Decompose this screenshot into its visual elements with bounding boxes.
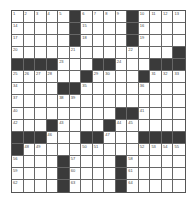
crossword-cell[interactable] bbox=[173, 156, 185, 168]
crossword-cell[interactable]: 48 bbox=[24, 144, 36, 156]
crossword-cell[interactable]: 44 bbox=[116, 120, 128, 132]
crossword-cell[interactable]: 5 bbox=[58, 11, 70, 23]
crossword-cell[interactable] bbox=[93, 23, 105, 35]
crossword-cell[interactable] bbox=[24, 83, 36, 95]
crossword-cell[interactable] bbox=[24, 35, 36, 47]
crossword-cell[interactable] bbox=[139, 180, 151, 192]
crossword-cell[interactable]: 58 bbox=[127, 156, 139, 168]
crossword-cell[interactable] bbox=[47, 168, 59, 180]
crossword-cell[interactable]: 8 bbox=[104, 11, 116, 23]
crossword-cell[interactable] bbox=[150, 156, 162, 168]
crossword-cell[interactable] bbox=[104, 83, 116, 95]
crossword-cell[interactable]: 47 bbox=[104, 132, 116, 144]
crossword-cell[interactable] bbox=[173, 120, 185, 132]
crossword-cell[interactable]: 35 bbox=[81, 83, 93, 95]
crossword-cell[interactable] bbox=[81, 168, 93, 180]
crossword-cell[interactable]: 23 bbox=[58, 59, 70, 71]
crossword-cell[interactable] bbox=[116, 71, 128, 83]
crossword-cell[interactable] bbox=[24, 95, 36, 107]
crossword-cell[interactable] bbox=[139, 59, 151, 71]
crossword-cell[interactable] bbox=[127, 71, 139, 83]
crossword-cell[interactable] bbox=[81, 47, 93, 59]
crossword-cell[interactable] bbox=[70, 144, 82, 156]
crossword-cell[interactable]: 24 bbox=[116, 59, 128, 71]
crossword-cell[interactable] bbox=[150, 120, 162, 132]
crossword-cell[interactable] bbox=[173, 83, 185, 95]
crossword-cell[interactable] bbox=[47, 35, 59, 47]
crossword-cell[interactable] bbox=[47, 144, 59, 156]
crossword-cell[interactable] bbox=[58, 108, 70, 120]
crossword-cell[interactable] bbox=[35, 83, 47, 95]
crossword-cell[interactable] bbox=[127, 132, 139, 144]
crossword-cell[interactable] bbox=[162, 168, 174, 180]
crossword-cell[interactable] bbox=[70, 108, 82, 120]
crossword-cell[interactable] bbox=[24, 180, 36, 192]
crossword-cell[interactable] bbox=[116, 95, 128, 107]
crossword-cell[interactable] bbox=[81, 95, 93, 107]
crossword-cell[interactable]: 14 bbox=[12, 23, 24, 35]
crossword-cell[interactable] bbox=[24, 168, 36, 180]
crossword-cell[interactable] bbox=[104, 144, 116, 156]
crossword-cell[interactable] bbox=[24, 156, 36, 168]
crossword-cell[interactable] bbox=[24, 23, 36, 35]
crossword-cell[interactable]: 9 bbox=[116, 11, 128, 23]
crossword-cell[interactable]: 31 bbox=[150, 71, 162, 83]
crossword-cell[interactable]: 6 bbox=[81, 11, 93, 23]
crossword-cell[interactable] bbox=[35, 23, 47, 35]
crossword-cell[interactable] bbox=[70, 71, 82, 83]
crossword-cell[interactable] bbox=[173, 180, 185, 192]
crossword-cell[interactable]: 45 bbox=[127, 120, 139, 132]
crossword-cell[interactable] bbox=[58, 35, 70, 47]
crossword-cell[interactable] bbox=[104, 47, 116, 59]
crossword-cell[interactable] bbox=[150, 23, 162, 35]
crossword-cell[interactable] bbox=[58, 47, 70, 59]
crossword-cell[interactable] bbox=[104, 95, 116, 107]
crossword-cell[interactable]: 30 bbox=[104, 71, 116, 83]
crossword-cell[interactable] bbox=[58, 23, 70, 35]
crossword-cell[interactable]: 11 bbox=[150, 11, 162, 23]
crossword-cell[interactable] bbox=[150, 83, 162, 95]
crossword-cell[interactable] bbox=[35, 95, 47, 107]
crossword-cell[interactable]: 13 bbox=[173, 11, 185, 23]
crossword-cell[interactable] bbox=[47, 23, 59, 35]
crossword-cell[interactable]: 64 bbox=[127, 180, 139, 192]
crossword-cell[interactable]: 12 bbox=[162, 11, 174, 23]
crossword-cell[interactable] bbox=[81, 108, 93, 120]
crossword-cell[interactable] bbox=[162, 95, 174, 107]
crossword-cell[interactable] bbox=[70, 120, 82, 132]
crossword-cell[interactable]: 34 bbox=[12, 83, 24, 95]
crossword-cell[interactable] bbox=[104, 168, 116, 180]
crossword-cell[interactable]: 19 bbox=[139, 35, 151, 47]
crossword-cell[interactable] bbox=[81, 180, 93, 192]
crossword-cell[interactable]: 1 bbox=[12, 11, 24, 23]
crossword-cell[interactable] bbox=[162, 83, 174, 95]
crossword-cell[interactable] bbox=[47, 156, 59, 168]
crossword-cell[interactable] bbox=[173, 35, 185, 47]
crossword-cell[interactable] bbox=[116, 144, 128, 156]
crossword-cell[interactable] bbox=[116, 47, 128, 59]
crossword-cell[interactable]: 38 bbox=[58, 95, 70, 107]
crossword-cell[interactable] bbox=[47, 180, 59, 192]
crossword-cell[interactable] bbox=[116, 23, 128, 35]
crossword-cell[interactable] bbox=[139, 47, 151, 59]
crossword-cell[interactable] bbox=[127, 59, 139, 71]
crossword-cell[interactable] bbox=[162, 23, 174, 35]
crossword-cell[interactable] bbox=[150, 168, 162, 180]
crossword-cell[interactable]: 29 bbox=[93, 71, 105, 83]
crossword-cell[interactable] bbox=[162, 120, 174, 132]
crossword-cell[interactable] bbox=[81, 156, 93, 168]
crossword-cell[interactable]: 3 bbox=[35, 11, 47, 23]
crossword-cell[interactable]: 60 bbox=[70, 168, 82, 180]
crossword-cell[interactable]: 51 bbox=[93, 144, 105, 156]
crossword-cell[interactable]: 62 bbox=[12, 180, 24, 192]
crossword-cell[interactable]: 43 bbox=[58, 120, 70, 132]
crossword-cell[interactable]: 37 bbox=[12, 95, 24, 107]
crossword-cell[interactable]: 10 bbox=[139, 11, 151, 23]
crossword-cell[interactable]: 18 bbox=[81, 35, 93, 47]
crossword-cell[interactable] bbox=[104, 23, 116, 35]
crossword-cell[interactable] bbox=[104, 156, 116, 168]
crossword-cell[interactable]: 56 bbox=[12, 156, 24, 168]
crossword-cell[interactable]: 50 bbox=[81, 144, 93, 156]
crossword-cell[interactable] bbox=[47, 83, 59, 95]
crossword-cell[interactable] bbox=[24, 120, 36, 132]
